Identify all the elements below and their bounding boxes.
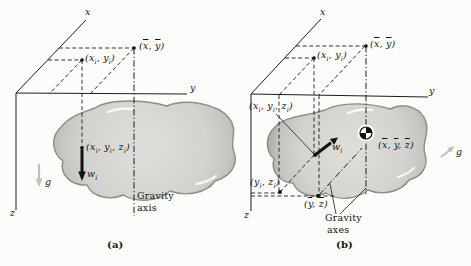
center-of-gravity-icon (358, 125, 375, 142)
particle-xyz-label-a: (xi, yi, zi) (86, 141, 130, 152)
z-axis-label-b: z (244, 209, 249, 220)
g-label-b: g (456, 146, 462, 157)
g-label-a: g (45, 176, 51, 187)
weight-label-a: wi (87, 168, 98, 179)
mean-xy-point-b (364, 44, 368, 48)
gravity-g-arrow-a-icon (36, 164, 43, 187)
particle-xy-point-a (80, 58, 84, 62)
y-axis-line-b (251, 94, 428, 97)
y-axis-line-a (16, 93, 187, 94)
particle-xy-point-b (312, 56, 316, 60)
particle-xyz-label-b: (xi, yi, zi) (249, 100, 293, 111)
panel-b (251, 19, 455, 214)
y-axis-label-a: y (190, 82, 196, 93)
caption-b: (b) (336, 239, 353, 250)
particle-yz-point-b (278, 190, 282, 194)
mean-yz-label-b: (y, z) (304, 198, 328, 209)
mean-xy-point-a (132, 46, 136, 50)
gravity-axes-label-b: Gravity (325, 212, 362, 223)
figure-canvas (0, 0, 471, 266)
center-of-gravity-figure: x y z (x, y) (xi, yi) (xi, yi, zi) wi g … (0, 0, 471, 266)
body-blob-b (267, 104, 427, 198)
x-axis-label-b: x (320, 6, 326, 17)
gravity-axis-label-a: axis (137, 202, 157, 213)
x-axis-line-a (16, 20, 86, 93)
particle-xyz-point-b (313, 153, 317, 157)
particle-yz-label-b: (yi, zi) (250, 176, 280, 187)
mean-xy-label-a: (x, y) (139, 40, 164, 51)
particle-xy-label-b: (xi, yi) (317, 49, 347, 60)
particle-xy-label-a: (xi, yi) (85, 52, 115, 63)
z-axis-label-a: z (10, 207, 15, 218)
weight-label-b: wi (332, 141, 343, 152)
center-of-gravity-label-b: (x, y, z) (378, 139, 414, 150)
y-axis-label-b: y (429, 85, 435, 96)
gravity-axes-label-b: axes (327, 224, 349, 235)
particle-xyz-point-a (80, 146, 84, 150)
caption-a: (a) (107, 239, 124, 250)
x-axis-line-b (251, 19, 321, 94)
x-axis-label-a: x (85, 6, 91, 17)
gravity-axis-label-a: Gravity (137, 190, 174, 201)
mean-xy-label-b: (x, y) (370, 38, 395, 49)
gravity-g-arrow-b-icon (441, 146, 455, 157)
